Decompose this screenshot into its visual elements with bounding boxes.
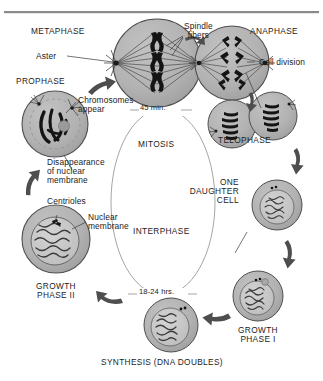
label-mitosis-duration: 45 min. [140, 104, 166, 112]
label-mitosis: MITOSIS [138, 140, 174, 149]
growth-ii-cell [22, 205, 90, 273]
label-telophase: TELOPHASE [218, 136, 271, 145]
telophase-cell-right [249, 92, 297, 140]
label-anaphase: ANAPHASE [250, 27, 298, 36]
label-nuclear-membrane: Nuclear membrane [88, 213, 129, 231]
label-centrioles: Centrioles [47, 197, 86, 206]
arrow-synthesis-to-growth-ii [96, 291, 123, 304]
label-prophase: PROPHASE [16, 77, 65, 86]
synthesis-cell [144, 298, 198, 352]
arrow-telophase-to-daughter [291, 148, 304, 175]
daughter-cell [252, 180, 302, 230]
top-rule [4, 11, 319, 13]
arrow-prophase-to-metaphase [88, 77, 116, 95]
label-growth-phase-ii: GROWTH PHASE II [24, 282, 88, 300]
label-aster: Aster [36, 52, 56, 61]
mitosis-cell-cycle-figure: METAPHASE ANAPHASE Spindle fibers Aster … [0, 0, 323, 381]
label-spindle-fibers: Spindle fibers [184, 22, 213, 40]
label-interphase: INTERPHASE [133, 227, 190, 236]
label-growth-phase-i: GROWTH PHASE I [228, 326, 288, 344]
arrow-growth-i-to-synthesis [202, 312, 231, 325]
label-metaphase: METAPHASE [31, 27, 85, 36]
label-disappearance-nuclear-membrane: Disappearance of nuclear membrane [47, 158, 105, 185]
label-synthesis: SYNTHESIS (DNA DOUBLES) [62, 358, 262, 367]
label-one-daughter-cell: ONE DAUGHTER CELL [175, 178, 239, 205]
arrow-growth-ii-to-prophase [26, 170, 40, 195]
label-interphase-duration: 18-24 hrs. [139, 288, 174, 296]
growth-i-cell [233, 271, 283, 321]
arrow-daughter-to-growth-i [283, 240, 296, 268]
label-cell-division: Cell division [259, 58, 305, 67]
label-chromosomes-appear: Chromosomes appear [78, 96, 134, 114]
